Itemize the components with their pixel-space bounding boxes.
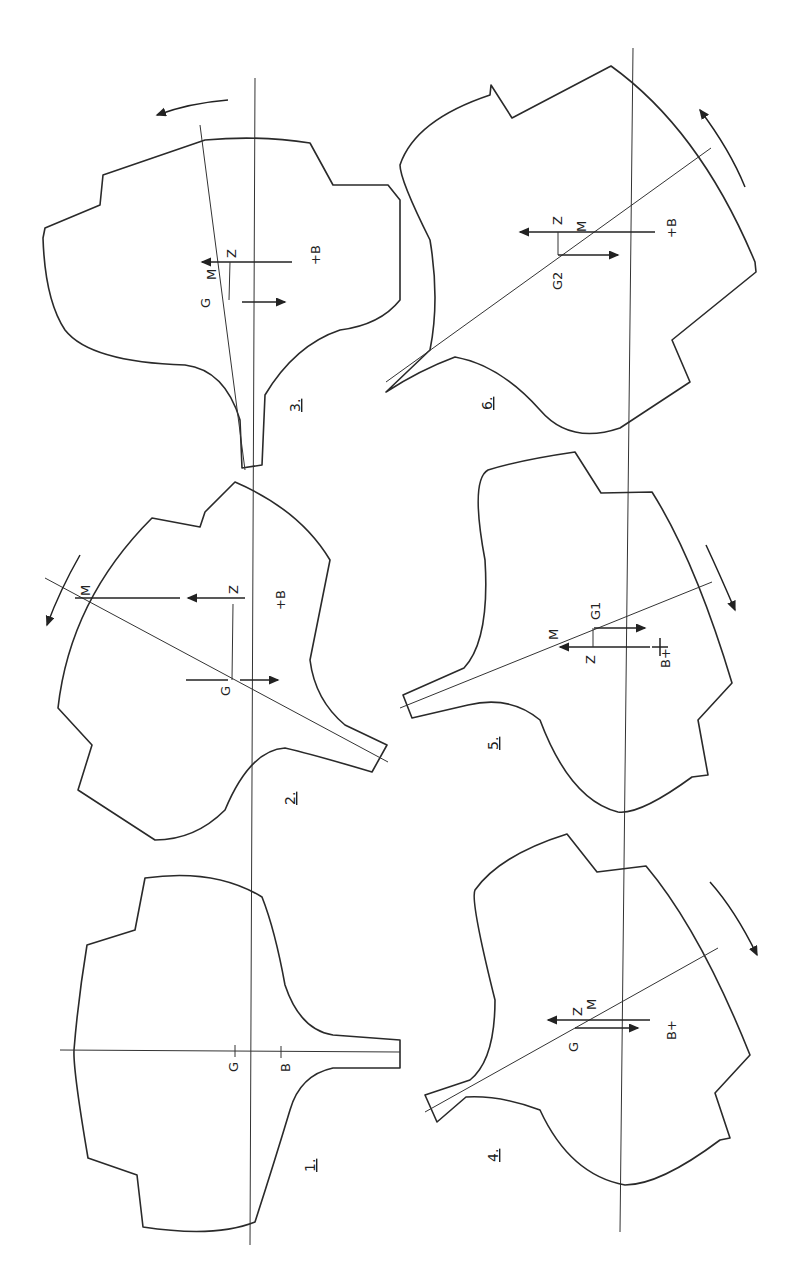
label-B-6: +B [664,218,679,238]
label-B-1: B [278,1063,293,1072]
diagram-canvas: G M Z +B 3. M Z G +B 2. G B 1. [0,0,786,1266]
section-number-5: 5. [485,737,501,750]
section-number-1: 1. [302,1159,318,1172]
section-3: G M Z +B 3. [43,100,400,470]
hull-outline-2 [58,482,387,840]
section-4: G M Z B+ 4. [425,834,757,1185]
rotation-arrow-5 [706,545,735,610]
label-M-6: M [574,221,589,232]
label-B-4: B+ [664,1020,679,1040]
label-G-3: G [198,298,213,308]
arm-line-2 [232,604,233,680]
label-Z-4: Z [570,1007,585,1016]
label-G-4: G [566,1042,581,1052]
rotation-arrow-6 [700,110,745,187]
label-M-2: M [78,585,93,596]
label-G-2: G [218,686,233,696]
section-number-4: 4. [485,1149,501,1162]
label-G-6: G2 [550,272,565,290]
waterline-right [620,48,633,1232]
heel-axis-5 [400,582,712,708]
label-M-3: M [204,269,219,280]
centreline-1 [60,1050,400,1052]
label-M-4: M [584,999,599,1010]
section-5: G1 M Z B+ 5. [400,452,735,812]
heel-axis-2 [45,578,388,762]
label-Z-2: Z [226,585,241,594]
label-B-5: B+ [658,648,673,668]
label-G-5: G1 [588,602,603,620]
section-number-2: 2. [282,792,298,805]
waterline-left [250,78,255,1245]
section-1: G B 1. [60,875,400,1231]
rotation-arrow-2 [47,555,80,625]
section-2: M Z G +B 2. [45,482,388,840]
section-number-3: 3. [287,399,303,412]
label-G-1: G [226,1062,241,1072]
heel-axis-3 [200,125,245,470]
section-6: G2 M Z +B 6. [386,66,756,434]
section-number-6: 6. [479,397,495,410]
hull-outline-1 [74,875,400,1231]
label-M-5: M [546,629,561,640]
label-B-2: +B [273,590,288,610]
label-B-3: +B [308,245,323,265]
label-Z-6: Z [550,216,565,225]
rotation-arrow-3 [157,100,228,115]
hull-outline-5 [403,452,732,812]
hull-outline-3 [43,138,400,468]
label-Z-3: Z [224,249,239,258]
rotation-arrow-4 [710,882,757,955]
label-Z-5: Z [583,655,598,664]
heel-axis-6 [386,148,711,382]
arm-line-3 [229,262,230,300]
hull-outline-6 [386,66,756,434]
